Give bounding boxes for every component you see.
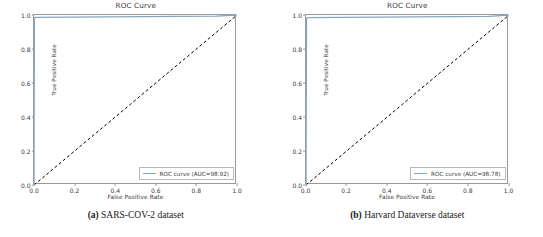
- legend-a: ROC curve (AUC=98.92): [139, 167, 234, 180]
- plot-lines-a: [34, 15, 237, 185]
- legend-label-a: ROC curve (AUC=98.92): [160, 171, 229, 177]
- ytick-label-b-1: 0.2: [292, 148, 302, 155]
- ytick-label-a-2: 0.4: [21, 114, 31, 121]
- caption-label-a: (a): [88, 210, 99, 220]
- xtick-label-b-5: 1.0: [504, 187, 514, 194]
- legend-b: ROC curve (AUC=98.78): [410, 167, 505, 180]
- xtick-label-a-1: 0.2: [70, 187, 80, 194]
- ytick-label-a-3: 0.6: [21, 80, 31, 87]
- plot-lines-b: [306, 15, 509, 185]
- x-axis-label-a: False Positive Rate: [34, 194, 237, 200]
- ytick-label-b-3: 0.6: [292, 80, 302, 87]
- ytick-label-b-2: 0.4: [292, 114, 302, 121]
- caption-text-b: Harvard Dataverse dataset: [364, 210, 464, 220]
- xtick-label-a-4: 0.8: [192, 187, 202, 194]
- xtick-label-b-4: 0.8: [463, 187, 473, 194]
- xtick-label-b-1: 0.2: [341, 187, 351, 194]
- ytick-label-a-5: 1.0: [21, 12, 31, 19]
- legend-label-b: ROC curve (AUC=98.78): [431, 171, 500, 177]
- xtick-label-b-3: 0.6: [423, 187, 433, 194]
- caption-a: (a) SARS-COV-2 dataset: [0, 210, 272, 220]
- caption-label-b: (b): [350, 210, 362, 220]
- roc-chart-a: ROC Curve 0.0 0.2 0.4 0.6 0.8: [0, 0, 272, 207]
- roc-chart-b: ROC Curve 0.0 0.2 0.4 0.6 0.8 1.0: [272, 0, 543, 207]
- xtick-label-a-0: 0.0: [29, 187, 39, 194]
- chance-diagonal-line-a: [34, 15, 237, 185]
- caption-text-a: SARS-COV-2 dataset: [101, 210, 184, 220]
- panel-a: ROC Curve 0.0 0.2 0.4 0.6 0.8: [0, 0, 272, 237]
- roc-figure-row: ROC Curve 0.0 0.2 0.4 0.6 0.8: [0, 0, 543, 237]
- xtick-label-b-0: 0.0: [301, 187, 311, 194]
- chart-title-b: ROC Curve: [272, 1, 543, 10]
- ytick-label-a-1: 0.2: [21, 148, 31, 155]
- xtick-label-a-3: 0.6: [151, 187, 161, 194]
- xtick-label-a-2: 0.4: [110, 187, 120, 194]
- caption-b: (b) Harvard Dataverse dataset: [272, 210, 543, 220]
- chance-diagonal-line-b: [306, 15, 509, 185]
- xtick-label-a-5: 1.0: [232, 187, 242, 194]
- ytick-label-a-4: 0.8: [21, 46, 31, 53]
- panel-b: ROC Curve 0.0 0.2 0.4 0.6 0.8 1.0: [272, 0, 543, 237]
- legend-line-swatch-a: [143, 173, 156, 174]
- y-axis-label-b: True Positive Rate: [323, 30, 329, 110]
- xtick-label-b-2: 0.4: [382, 187, 392, 194]
- chart-title-a: ROC Curve: [0, 1, 272, 10]
- plot-box-b: 0.0 0.2 0.4 0.6 0.8 1.0 0.0 0.2 0.4 0: [305, 14, 508, 184]
- legend-line-swatch-b: [414, 173, 427, 174]
- ytick-label-b-4: 0.8: [292, 46, 302, 53]
- x-axis-label-b: False Positive Rate: [306, 194, 509, 200]
- ytick-label-b-5: 1.0: [292, 12, 302, 19]
- y-axis-label-a: True Positive Rate: [51, 30, 57, 110]
- plot-box-a: 0.0 0.2 0.4 0.6 0.8 1.0 0.0 0.2 0.4 0: [33, 14, 236, 184]
